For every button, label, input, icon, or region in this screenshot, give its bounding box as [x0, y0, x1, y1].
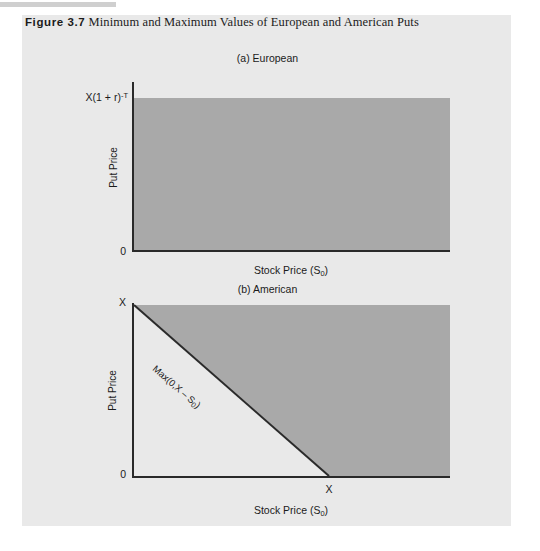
chart-american-x-axis: [132, 476, 450, 478]
chart-european-y-axis-title: Put Price: [108, 138, 119, 198]
chart-european-subtitle: (a) European: [40, 52, 495, 64]
chart-american-subtitle: (b) American: [40, 283, 495, 295]
chart-european: (a) European X(1 + r)-T 0 Put Price Stoc…: [40, 52, 495, 287]
figure-number: Figure 3.7: [25, 16, 85, 28]
chart-european-x-axis-title-base: Stock Price (S: [254, 264, 321, 276]
chart-european-shaded-region: [134, 98, 450, 251]
chart-american-x-axis-title: Stock Price (S0): [132, 504, 450, 518]
figure-page: Figure 3.7 Minimum and Maximum Values of…: [0, 0, 540, 551]
chart-american-ytick-zero: 0: [98, 468, 126, 480]
figure-title: Figure 3.7 Minimum and Maximum Values of…: [25, 15, 419, 30]
chart-american-x-axis-title-base: Stock Price (S: [254, 504, 321, 516]
chart-european-y-axis: [132, 82, 134, 252]
page-edge-strip: [0, 2, 116, 7]
chart-american: (b) American X 0 Put Price X Stock Price…: [40, 283, 495, 518]
chart-european-ytick-max-base: X(1 + r): [86, 91, 121, 103]
chart-american-ytick-max: X: [98, 296, 126, 308]
chart-european-ytick-max-exponent: -T: [121, 91, 128, 100]
chart-european-ytick-max: X(1 + r)-T: [34, 91, 128, 103]
chart-american-y-axis-title: Put Price: [107, 361, 118, 421]
chart-european-x-axis-title-suffix: ): [325, 264, 329, 276]
chart-european-ytick-zero: 0: [100, 245, 126, 257]
figure-title-text: Minimum and Maximum Values of European a…: [89, 15, 419, 29]
chart-european-plot: [132, 82, 450, 252]
chart-european-x-axis-title: Stock Price (S0): [132, 264, 450, 278]
chart-american-xtick-strike: X: [316, 483, 342, 495]
chart-american-y-axis: [132, 303, 134, 478]
chart-american-x-axis-title-suffix: ): [325, 504, 329, 516]
chart-european-x-axis: [132, 250, 450, 252]
